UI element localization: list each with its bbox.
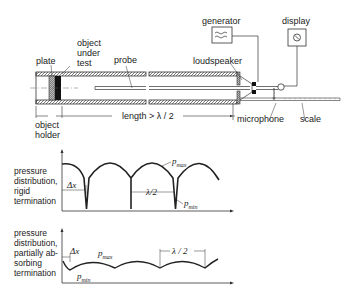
chart-rigid-delta-x: Δx [67, 180, 76, 190]
chart-absorbing-delta-x: Δx [70, 246, 79, 256]
label-plate: plate [36, 56, 56, 66]
pmin-subscript: min [189, 204, 198, 210]
label-object-holder: object holder [35, 120, 60, 140]
label-loudspeaker: loudspeaker [193, 56, 242, 66]
label-generator: generator [202, 16, 241, 26]
label-object-under-test: object under test [77, 38, 101, 68]
chart-rigid-half-lambda: λ/2 [146, 187, 157, 197]
chart-rigid-termination [61, 149, 235, 213]
chart-absorbing-pmin: pmin [77, 271, 91, 285]
label-microphone: microphone [237, 114, 284, 124]
pmax-subscript: max [103, 254, 113, 260]
scale [240, 98, 340, 101]
label-length: length > λ / 2 [122, 111, 174, 121]
microphone [278, 84, 284, 90]
generator-box [212, 27, 232, 43]
tube-right-section [149, 72, 237, 104]
chart-absorbing-pmax: pmax [98, 248, 113, 262]
label-display: display [282, 16, 310, 26]
chart-rigid-pmin: pmin [184, 198, 198, 212]
absorbing-curve [63, 259, 218, 270]
chart-rigid-ylabel: pressure distribution, rigid termination [14, 166, 57, 206]
pmin-subscript: min [82, 277, 91, 283]
chart-rigid-pmax: pmax [172, 156, 187, 170]
label-probe: probe [114, 55, 137, 65]
pmax-subscript: max [177, 162, 187, 168]
label-scale: scale [300, 114, 321, 124]
chart-absorbing-half-lambda: λ / 2 [172, 246, 187, 256]
probe [95, 87, 250, 90]
chart-absorbing-ylabel: pressure distribution, partially ab- sor… [14, 228, 58, 278]
